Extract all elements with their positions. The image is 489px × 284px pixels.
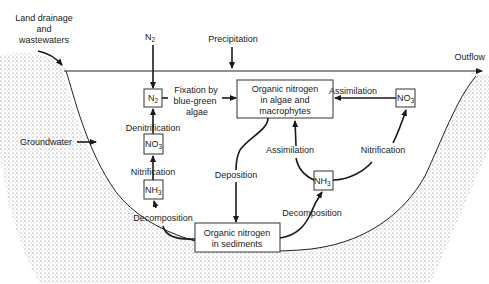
deposition-label: Deposition	[215, 170, 258, 180]
svg-text:macrophytes: macrophytes	[259, 106, 311, 116]
decomposition-left-label: Decomposition	[133, 213, 193, 223]
svg-text:wastewaters: wastewaters	[18, 35, 70, 45]
svg-text:Organic nitrogen: Organic nitrogen	[204, 228, 271, 238]
n2-atmosphere-label: N2	[145, 32, 156, 43]
svg-text:blue-green: blue-green	[173, 96, 216, 106]
assimilation-top-label: Assimilation	[329, 86, 377, 96]
groundwater-label: Groundwater	[20, 137, 72, 147]
svg-text:algae: algae	[186, 107, 208, 117]
nitrification-right-label: Nitrification	[361, 145, 406, 155]
land-drainage-label: Land drainage	[15, 13, 73, 23]
svg-text:in sediments: in sediments	[212, 239, 263, 249]
fixation-label: Fixation by	[174, 85, 218, 95]
outflow-label: Outflow	[454, 52, 485, 62]
nitrogen-cycle-diagram: Land drainage and wastewaters N2 Precipi…	[0, 0, 489, 284]
svg-text:Organic nitrogen: Organic nitrogen	[252, 84, 319, 94]
assimilation-mid-arrow	[295, 121, 296, 146]
assimilation-mid-label: Assimilation	[266, 145, 314, 155]
svg-text:in algae and: in algae and	[260, 95, 309, 105]
svg-text:and: and	[36, 24, 51, 34]
precipitation-label: Precipitation	[208, 34, 258, 44]
